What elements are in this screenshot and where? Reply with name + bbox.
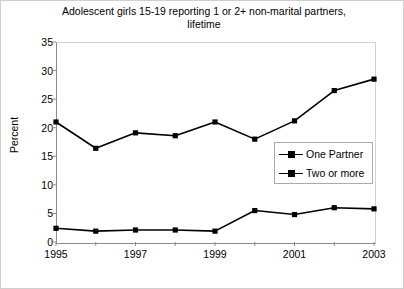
series-line-one-partner <box>56 79 374 148</box>
data-point-marker <box>53 119 58 124</box>
x-axis-tick-labels: 19951997199920012003 <box>1 248 404 268</box>
legend-item-two-or-more: Two or more <box>279 164 364 182</box>
data-point-marker <box>252 137 257 142</box>
legend-item-one-partner: One Partner <box>279 145 363 163</box>
data-point-marker <box>93 146 98 151</box>
legend-label: One Partner <box>306 148 363 160</box>
data-point-marker <box>371 206 376 211</box>
data-point-marker <box>332 205 337 210</box>
x-tick-label: 1997 <box>111 248 161 260</box>
data-point-marker <box>292 212 297 217</box>
legend-marker-icon <box>279 168 303 178</box>
series-line-two-or-more <box>56 208 374 231</box>
data-point-marker <box>93 229 98 234</box>
x-tick-label: 1995 <box>31 248 81 260</box>
data-point-marker <box>292 118 297 123</box>
data-point-marker <box>133 227 138 232</box>
x-tick-label: 2003 <box>349 248 399 260</box>
chart-legend: One Partner Two or more <box>274 142 373 184</box>
data-point-marker <box>212 119 217 124</box>
legend-label: Two or more <box>306 167 364 179</box>
legend-marker-icon <box>279 149 303 159</box>
data-point-marker <box>173 133 178 138</box>
data-point-marker <box>173 227 178 232</box>
data-point-marker <box>252 208 257 213</box>
data-point-marker <box>212 229 217 234</box>
data-point-marker <box>371 77 376 82</box>
data-point-marker <box>133 130 138 135</box>
x-tick-label: 1999 <box>190 248 240 260</box>
chart-figure: Adolescent girls 15-19 reporting 1 or 2+… <box>0 0 404 289</box>
x-tick-label: 2001 <box>270 248 320 260</box>
data-point-marker <box>332 88 337 93</box>
data-point-marker <box>53 226 58 231</box>
